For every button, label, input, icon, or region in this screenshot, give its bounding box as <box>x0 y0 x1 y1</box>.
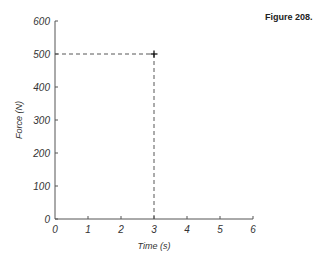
x-axis-title: Time (s) <box>138 241 171 251</box>
x-tick-label: 4 <box>184 224 190 235</box>
force-time-chart: 01002003004005006000123456Time (s)Force … <box>0 0 320 267</box>
x-tick-label: 5 <box>217 224 223 235</box>
y-tick-label: 500 <box>33 49 50 60</box>
y-tick-label: 0 <box>44 214 50 225</box>
x-tick-label: 6 <box>250 224 256 235</box>
x-tick-label: 3 <box>151 224 157 235</box>
x-tick-label: 0 <box>52 224 58 235</box>
x-tick-label: 1 <box>85 224 91 235</box>
y-tick-label: 400 <box>33 82 50 93</box>
y-tick-label: 100 <box>33 181 50 192</box>
y-tick-label: 200 <box>32 148 50 159</box>
y-axis-title: Force (N) <box>14 101 24 139</box>
y-tick-label: 300 <box>33 115 50 126</box>
y-tick-label: 600 <box>33 16 50 27</box>
x-tick-label: 2 <box>117 224 124 235</box>
